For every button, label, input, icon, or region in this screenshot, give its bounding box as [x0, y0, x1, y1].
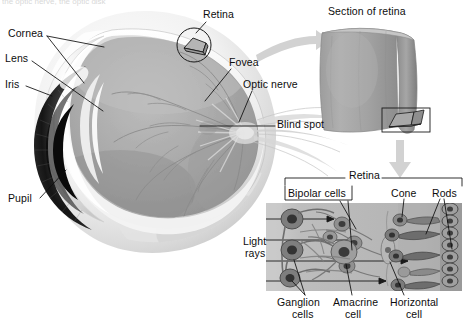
label-light-rays-line2: rays — [245, 248, 265, 259]
label-bipolar-cells: Bipolar cells — [288, 188, 346, 199]
label-ganglion-cells-line1: Ganglion — [277, 297, 320, 308]
label-blind-spot: Blind spot — [277, 119, 324, 130]
pigment-epithelium — [440, 203, 462, 291]
retina-cell-panel — [232, 203, 462, 291]
arrow-to-cells — [389, 140, 411, 178]
eye-anatomy-figure: the optic nerve, the optic disk — [0, 0, 476, 330]
label-horizontal-cell-line1: Horizontal — [390, 297, 438, 308]
label-ganglion-cells-line2: cells — [292, 309, 314, 320]
label-amacrine-cell-line2: cell — [345, 309, 361, 320]
arrow-to-section — [256, 30, 330, 62]
label-lens: Lens — [5, 53, 28, 64]
label-amacrine-cell-line1: Amacrine — [333, 297, 378, 308]
label-section-of-retina: Section of retina — [328, 6, 406, 17]
figure-artwork — [0, 0, 476, 330]
label-retina-bracket: Retina — [349, 170, 380, 181]
label-light-rays-line1: Light — [243, 236, 266, 247]
label-horizontal-cell-line2: cell — [406, 309, 422, 320]
label-cornea: Cornea — [8, 28, 43, 39]
fovea-spot — [199, 121, 217, 135]
label-iris: Iris — [5, 79, 19, 90]
label-pupil: Pupil — [8, 193, 32, 204]
label-rods: Rods — [432, 188, 457, 199]
label-fovea: Fovea — [229, 57, 259, 68]
label-retina: Retina — [203, 9, 234, 20]
retina-bracket — [285, 178, 345, 185]
retina-bracket-right — [382, 178, 462, 186]
label-cone: Cone — [391, 188, 417, 199]
label-optic-nerve: Optic nerve — [243, 79, 298, 90]
